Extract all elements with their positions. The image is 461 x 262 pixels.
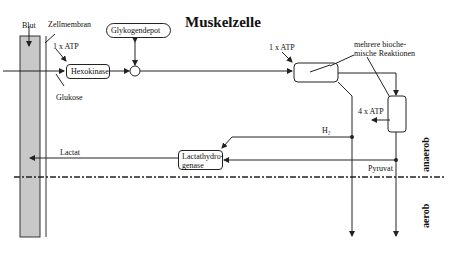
hexokinase-label: Hexokinase bbox=[71, 67, 109, 76]
label-atp1-right: 1 x ATP bbox=[269, 43, 295, 52]
label-reaktionen-1: mehrere bioche- bbox=[354, 40, 406, 49]
label-blut: Blut bbox=[22, 21, 36, 30]
label-atp4: 4 x ATP bbox=[358, 107, 384, 116]
label-lactat: Lactat bbox=[60, 148, 80, 157]
diagram-title: Muskelzelle bbox=[185, 14, 261, 31]
blood-vessel bbox=[20, 36, 40, 237]
lactathydrogenase-box: Lactathydro- genase bbox=[178, 150, 223, 170]
label-anaerob: anaerob bbox=[420, 137, 431, 172]
label-h2: H₂ bbox=[322, 126, 331, 135]
hexokinase-box: Hexokinase bbox=[66, 64, 110, 79]
label-pyruvat: Pyruvat bbox=[368, 164, 393, 173]
glykogendepot-box: Glykogendepot bbox=[106, 23, 171, 38]
label-glukose: Glukose bbox=[56, 93, 83, 102]
label-atp1-left: 1 x ATP bbox=[53, 42, 79, 51]
lactathydrogenase-label-1: Lactathydro- bbox=[182, 152, 219, 161]
label-zellmembran: Zellmembran bbox=[48, 20, 91, 29]
glykogendepot-label: Glykogendepot bbox=[111, 26, 160, 35]
label-reaktionen-2: mische Reaktionen bbox=[354, 49, 415, 58]
label-aerob: aerob bbox=[420, 204, 431, 228]
lactathydrogenase-label-2: genase bbox=[182, 161, 219, 170]
